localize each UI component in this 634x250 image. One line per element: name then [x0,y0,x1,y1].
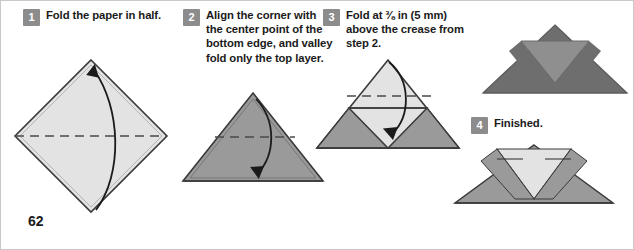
step-1-heading: 1 Fold the paper in half. [23,8,165,26]
instruction-page: 1 Fold the paper in half. 2 Align the co… [0,0,634,250]
triangle-diagram [179,89,327,189]
step-2-badge: 2 [183,9,200,26]
dark-form-diagram [479,21,631,101]
step-3-heading: 3 Fold at ⅜ in (5 mm) above the crease f… [323,8,473,51]
step-4-text: Finished. [494,116,543,130]
step-1-text: Fold the paper in half. [46,8,161,22]
figure-step-2 [179,89,327,189]
page-number: 62 [28,213,44,229]
figure-step-3 [313,56,463,156]
diamond-diagram [11,56,171,216]
finished-form-diagram [449,139,619,211]
step-1-badge: 1 [23,9,40,26]
figure-finished [449,139,619,211]
step-2-heading: 2 Align the corner with the center point… [183,8,333,65]
step-3-badge: 3 [323,9,340,26]
step-4-badge: 4 [471,117,488,134]
step-4-heading: 4 Finished. [471,116,611,134]
notched-triangle-diagram [313,56,463,156]
figure-step-1 [11,56,171,216]
figure-dark-preview [479,21,631,101]
step-3-text: Fold at ⅜ in (5 mm) above the crease fro… [346,8,473,51]
